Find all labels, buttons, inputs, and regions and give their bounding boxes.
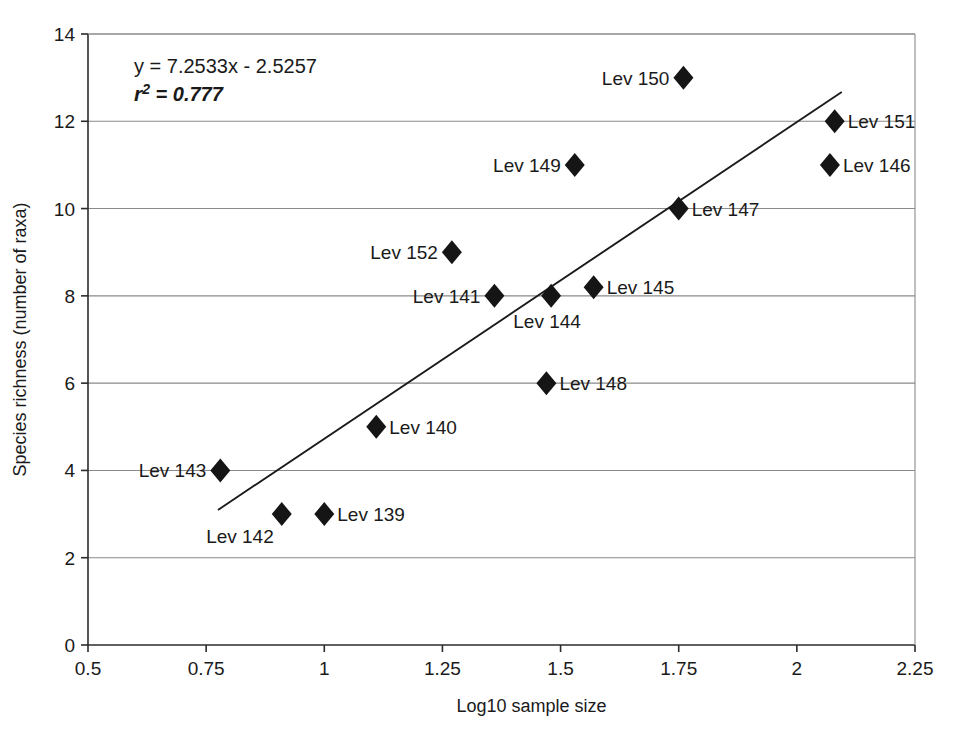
data-point-label: Lev 142 [206,526,274,547]
y-tick-label-6: 12 [54,111,75,132]
x-tick-label-0: 0.5 [75,658,101,679]
data-point-marker [272,502,292,526]
data-point-marker [314,502,334,526]
data-point-marker [536,371,556,395]
data-point-marker [484,284,504,308]
data-point-label: Lev 143 [139,460,207,481]
data-point-marker [210,458,230,482]
x-tick-labels-group: 0.50.7511.251.51.7522.25 [75,658,934,679]
x-tick-label-2: 1 [319,658,330,679]
data-point-marker [820,153,840,177]
data-point-label: Lev 150 [602,68,670,89]
y-tick-label-7: 14 [54,24,76,45]
data-point-label: Lev 147 [692,199,760,220]
y-tick-label-4: 8 [64,286,75,307]
data-point-label: Lev 152 [370,242,438,263]
data-point-marker [673,66,693,90]
y-tick-label-1: 2 [64,548,75,569]
regression-equation-text: y = 7.2533x - 2.5257 [134,55,317,77]
data-point-label: Lev 149 [493,155,561,176]
scatter-chart-figure: 0.50.7511.251.51.7522.25 02468101214 Lev… [0,0,967,743]
x-tick-label-4: 1.5 [547,658,573,679]
annotation-group: y = 7.2533x - 2.5257r2 = 0.777 [134,55,317,105]
r-squared-annotation: r2 = 0.777 [134,81,224,105]
data-point-label: Lev 144 [513,311,581,332]
data-point-label: Lev 145 [607,277,675,298]
y-tick-label-3: 6 [64,373,75,394]
data-point-marker [541,284,561,308]
y-tick-labels-group: 02468101214 [54,24,76,656]
point-labels-group: Lev 143Lev 142Lev 139Lev 140Lev 152Lev 1… [139,68,916,547]
y-tick-label-2: 4 [64,460,75,481]
data-point-label: Lev 148 [559,373,627,394]
x-tick-label-1: 0.75 [188,658,225,679]
data-point-marker [366,415,386,439]
y-tick-label-5: 10 [54,199,75,220]
axis-titles-group: Log10 sample sizeSpecies richness (numbe… [10,202,607,716]
data-point-marker [825,109,845,133]
data-point-marker [442,240,462,264]
x-axis-title: Log10 sample size [456,696,606,716]
x-tick-label-5: 1.75 [660,658,697,679]
data-point-marker [565,153,585,177]
data-point-label: Lev 141 [413,286,481,307]
x-tick-label-7: 2.25 [897,658,934,679]
r-value: = 0.777 [150,83,224,105]
x-tick-label-3: 1.25 [424,658,461,679]
y-tick-label-0: 0 [64,635,75,656]
data-point-label: Lev 151 [848,111,916,132]
data-point-label: Lev 140 [389,417,457,438]
data-point-marker [669,197,689,221]
plot-canvas: 0.50.7511.251.51.7522.25 02468101214 Lev… [0,0,967,743]
y-axis-title: Species richness (number of raxa) [10,202,30,476]
data-point-label: Lev 139 [337,504,405,525]
x-tick-label-6: 2 [792,658,803,679]
data-point-label: Lev 146 [843,155,911,176]
r-exponent: 2 [141,81,150,97]
